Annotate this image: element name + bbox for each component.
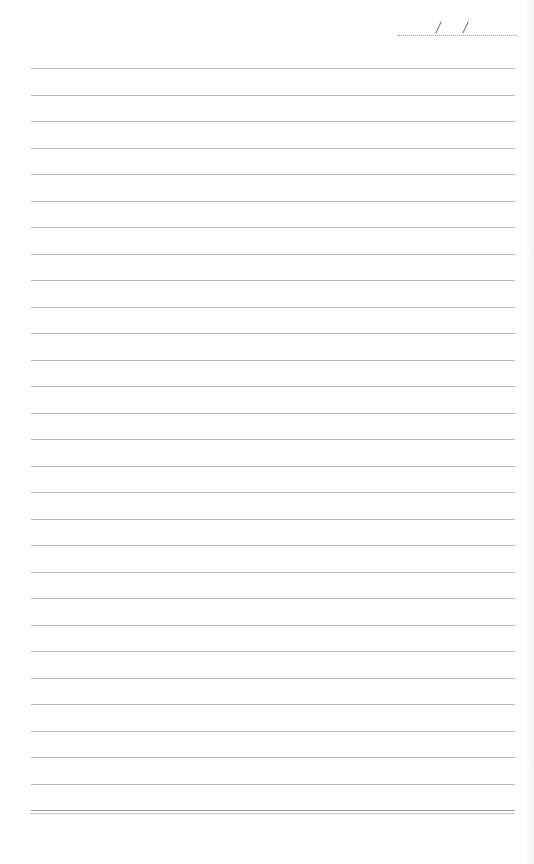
ruled-line [31, 625, 515, 626]
ruled-line [31, 254, 515, 255]
ruled-line [31, 307, 515, 308]
ruled-line [31, 439, 515, 440]
date-dotted-underline [398, 35, 516, 36]
notebook-page [0, 0, 534, 864]
ruled-line [31, 386, 515, 387]
ruled-line [31, 519, 515, 520]
ruled-line [31, 651, 515, 652]
ruled-line [31, 545, 515, 546]
date-field[interactable] [398, 20, 516, 36]
ruled-line [31, 174, 515, 175]
ruled-line [31, 68, 515, 69]
ruled-line [31, 757, 515, 758]
ruled-line [31, 598, 515, 599]
ruled-line [31, 731, 515, 732]
ruled-line [31, 148, 515, 149]
ruled-line [31, 280, 515, 281]
ruled-line [31, 413, 515, 414]
ruled-line [31, 492, 515, 493]
ruled-line [31, 121, 515, 122]
ruled-line [31, 360, 515, 361]
ruled-lines [31, 68, 515, 810]
date-slash-2 [462, 21, 468, 33]
ruled-line [31, 227, 515, 228]
ruled-line [31, 784, 515, 785]
ruled-line [31, 704, 515, 705]
bottom-double-rule [31, 810, 515, 814]
ruled-line [31, 333, 515, 334]
ruled-line [31, 95, 515, 96]
ruled-line [31, 572, 515, 573]
ruled-line [31, 678, 515, 679]
ruled-line [31, 201, 515, 202]
ruled-line [31, 466, 515, 467]
page-edge-shadow [526, 0, 534, 864]
date-slash-1 [435, 21, 441, 33]
